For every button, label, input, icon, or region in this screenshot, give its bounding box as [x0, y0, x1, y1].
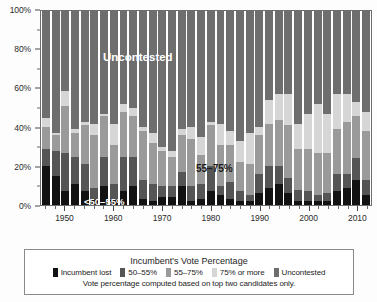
bar-stack [110, 11, 118, 205]
segment-55-75 [255, 135, 263, 174]
bar-stack [90, 11, 98, 205]
segment-50-55 [110, 184, 118, 200]
bar-2004 [322, 11, 332, 205]
x-tick-minor [103, 206, 104, 209]
segment-uncontested [187, 11, 195, 127]
segment-incumbent-lost [61, 191, 69, 205]
segment-uncontested [100, 11, 108, 114]
legend-item: 55–75% [166, 268, 203, 277]
segment-55-75 [158, 151, 166, 186]
legend-items: Incumbent lost50–55%55–75%75% or moreUnc… [53, 268, 326, 277]
segment-75-or-more [236, 141, 244, 162]
segment-incumbent-lost [71, 184, 79, 205]
x-tick-minor [143, 206, 144, 209]
bar-stack [275, 11, 283, 205]
segment-incumbent-lost [158, 197, 166, 205]
x-tick-minor [94, 206, 95, 209]
segment-55-75 [352, 116, 360, 159]
segment-uncontested [71, 11, 79, 129]
segment-incumbent-lost [333, 191, 341, 205]
segment-55-75 [100, 116, 108, 157]
segment-50-55 [275, 166, 283, 183]
bar-stack [314, 11, 322, 205]
segment-uncontested [362, 11, 370, 112]
bar-stack [158, 11, 166, 205]
bar-2012 [361, 11, 371, 205]
segment-incumbent-lost [323, 201, 331, 205]
bar-1968 [148, 11, 158, 205]
segment-incumbent-lost [246, 201, 254, 205]
segment-75-or-more [362, 112, 370, 131]
segment-55-75 [236, 162, 244, 191]
segment-55-75 [284, 125, 292, 177]
legend-item-label: 55–75% [174, 268, 203, 277]
bar-stack [343, 11, 351, 205]
legend-item-label: Uncontested [282, 268, 326, 277]
segment-incumbent-lost [343, 188, 351, 205]
segment-uncontested [52, 11, 60, 133]
plot-area: Uncontested 55–75% <50–55% [40, 10, 372, 206]
x-tick-major [64, 206, 65, 211]
segment-uncontested [42, 11, 50, 118]
bar-1976 [187, 11, 197, 205]
segment-50-55 [304, 191, 312, 201]
bar-1946 [41, 11, 51, 205]
segment-55-75 [178, 135, 186, 172]
segment-uncontested [275, 11, 283, 94]
segment-incumbent-lost [226, 199, 234, 205]
bar-1962 [119, 11, 129, 205]
segment-incumbent-lost [120, 191, 128, 205]
segment-50-55 [333, 174, 341, 191]
segment-75-or-more [61, 91, 69, 107]
bar-stack [129, 11, 137, 205]
segment-55-75 [120, 112, 128, 157]
segment-incumbent-lost [187, 201, 195, 205]
chart-root: 0%20%40%60%80%100% Uncontested 55–75% <5… [0, 0, 377, 302]
bar-1990 [254, 11, 264, 205]
bar-stack [168, 11, 176, 205]
segment-75-or-more [343, 94, 351, 121]
segment-uncontested [110, 11, 118, 124]
legend-item-label: 75% or more [220, 268, 265, 277]
legend-item-label: 50–55% [128, 268, 157, 277]
bar-1958 [99, 11, 109, 205]
segment-55-75 [246, 164, 254, 195]
segment-incumbent-lost [149, 201, 157, 205]
bar-2010 [352, 11, 362, 205]
x-tick-minor [230, 206, 231, 209]
bar-stack [217, 11, 225, 205]
x-tick-minor [201, 206, 202, 209]
segment-uncontested [168, 11, 176, 151]
segment-incumbent-lost [207, 191, 215, 205]
bar-stack [226, 11, 234, 205]
bar-1948 [51, 11, 61, 205]
segment-50-55 [187, 186, 195, 202]
segment-50-55 [236, 191, 244, 201]
x-tick-label: 2000 [299, 213, 318, 223]
legend-swatch-icon [212, 268, 217, 277]
segment-55-75 [362, 131, 370, 180]
segment-75-or-more [110, 124, 118, 145]
segment-incumbent-lost [100, 186, 108, 205]
segment-50-55 [207, 166, 215, 191]
bar-1982 [216, 11, 226, 205]
y-tick-label: 60% [14, 83, 31, 93]
segment-incumbent-lost [52, 176, 60, 205]
segment-75-or-more [187, 127, 195, 139]
bar-1986 [235, 11, 245, 205]
segment-uncontested [120, 11, 128, 104]
segment-uncontested [246, 11, 254, 133]
segment-uncontested [217, 11, 225, 124]
bar-stack [323, 11, 331, 205]
segment-75-or-more [217, 124, 225, 145]
segment-incumbent-lost [304, 201, 312, 205]
segment-50-55 [120, 157, 128, 192]
segment-incumbent-lost [178, 186, 186, 205]
segment-55-75 [275, 120, 283, 167]
segment-uncontested [236, 11, 244, 141]
x-tick-minor [45, 206, 46, 209]
segment-50-55 [90, 188, 98, 200]
segment-50-55 [362, 180, 370, 196]
bar-1970 [157, 11, 167, 205]
x-tick-minor [269, 206, 270, 209]
